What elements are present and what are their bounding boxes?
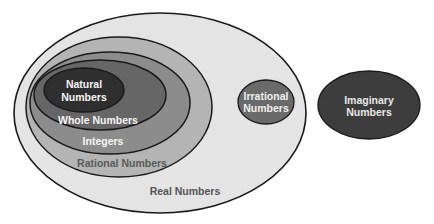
natural-numbers-set [44,68,124,112]
imaginary-numbers-label-line2: Numbers [346,106,392,118]
number-sets-diagram: Natural Numbers Whole Numbers Integers R… [0,0,434,224]
rational-numbers-label: Rational Numbers [77,157,167,169]
irrational-numbers-label-line1: Irrational [244,90,289,102]
real-numbers-label: Real Numbers [150,185,221,197]
natural-numbers-label-line1: Natural [66,78,102,90]
irrational-numbers-label-line2: Numbers [243,102,289,114]
imaginary-numbers-label-line1: Imaginary [344,94,394,106]
integers-label: Integers [83,135,124,147]
whole-numbers-label: Whole Numbers [58,114,138,126]
natural-numbers-label-line2: Numbers [61,91,107,103]
